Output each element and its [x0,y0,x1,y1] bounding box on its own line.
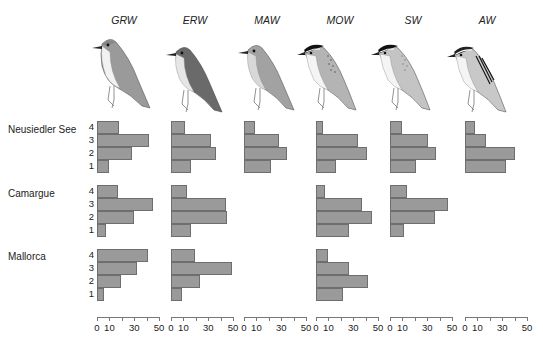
axis-tick [208,317,209,321]
bar-category-4 [316,121,323,134]
bar-category-2 [316,275,368,288]
x-tick-label: 30 [497,322,508,333]
axis-tick [477,317,478,321]
axis-tick [183,317,184,321]
bar-category-4 [171,249,195,262]
axis-line [171,317,233,318]
site-label-camargue: Camargue [8,188,55,199]
axis-tick [378,317,379,321]
y-label-4: 4 [84,185,94,196]
axis-tick [440,317,441,321]
y-label-1: 1 [84,288,94,299]
bar-category-2 [390,211,435,224]
y-label-1: 1 [84,160,94,171]
axis-tick [415,317,416,321]
axis-line [97,317,159,318]
axis-line [316,317,378,318]
axis-line [465,317,527,318]
axis-tick [353,317,354,321]
panel-neusiedler-see-grw [97,121,161,177]
axis-tick [490,317,491,321]
x-tick-label: 30 [203,322,214,333]
x-tick-label: 30 [422,322,433,333]
panel-camargue-erw [171,185,235,241]
bar-category-1 [171,160,191,173]
axis-tick [527,317,528,321]
x-tick-label: 0 [462,322,467,333]
panel-neusiedler-see-aw [465,121,529,177]
bar-category-3 [390,198,448,211]
species-label-erw: ERW [165,14,225,26]
bar-category-4 [171,185,187,198]
species-label-aw: AW [457,14,517,26]
panel-neusiedler-see-sw [390,121,454,177]
y-label-2: 2 [84,147,94,158]
bar-category-3 [316,198,362,211]
bar-category-2 [171,275,200,288]
bar-category-4 [316,249,328,262]
bird-maw-illustration [222,28,302,113]
bar-category-3 [316,134,358,147]
bar-category-2 [390,147,436,160]
x-tick-label: 30 [129,322,140,333]
bar-category-1 [465,160,506,173]
axis-tick [159,317,160,321]
y-label-3: 3 [84,262,94,273]
bird-grw-illustration [72,28,152,113]
axis-tick [341,317,342,321]
axis-tick [122,317,123,321]
x-tick-label: 30 [348,322,359,333]
axis-tick [109,317,110,321]
bar-category-1 [97,288,104,301]
axis-tick [452,317,453,321]
bar-category-2 [316,147,367,160]
bar-category-2 [171,211,227,224]
species-label-mow: MOW [310,14,370,26]
site-label-mallorca: Mallorca [8,251,46,262]
x-tick-label: 50 [228,322,239,333]
bar-category-3 [97,262,137,275]
bar-category-1 [316,288,343,301]
y-label-2: 2 [84,211,94,222]
bar-category-4 [390,185,407,198]
axis-tick [171,317,172,321]
x-tick-label: 10 [178,322,189,333]
x-tick-label: 10 [397,322,408,333]
axis-tick [427,317,428,321]
y-label-4: 4 [84,121,94,132]
x-tick-label: 0 [241,322,246,333]
axis-tick [269,317,270,321]
bar-category-2 [316,211,372,224]
x-tick-label: 10 [104,322,115,333]
bar-category-3 [465,134,486,147]
x-tick-label: 0 [387,322,392,333]
y-label-1: 1 [84,224,94,235]
y-label-2: 2 [84,275,94,286]
axis-tick [294,317,295,321]
x-tick-label: 50 [373,322,384,333]
bar-category-1 [244,160,271,173]
x-tick-label: 10 [323,322,334,333]
bar-category-2 [465,147,515,160]
bird-mow-illustration [292,28,372,113]
site-label-neusiedler-see: Neusiedler See [8,124,76,135]
panel-mallorca-erw [171,249,235,305]
bar-category-4 [244,121,255,134]
x-tick-label: 0 [168,322,173,333]
axis-tick [147,317,148,321]
bar-category-4 [171,121,185,134]
panel-camargue-grw [97,185,161,241]
bar-category-4 [97,249,148,262]
bar-category-1 [171,224,191,237]
x-tick-label: 0 [94,322,99,333]
x-tick-label: 30 [276,322,287,333]
axis-tick [221,317,222,321]
bird-aw-illustration [440,28,520,113]
panel-neusiedler-see-maw [244,121,308,177]
axis-tick [244,317,245,321]
bar-category-3 [97,134,149,147]
axis-tick [281,317,282,321]
bar-category-2 [97,147,132,160]
axis-tick [465,317,466,321]
axis-tick [390,317,391,321]
